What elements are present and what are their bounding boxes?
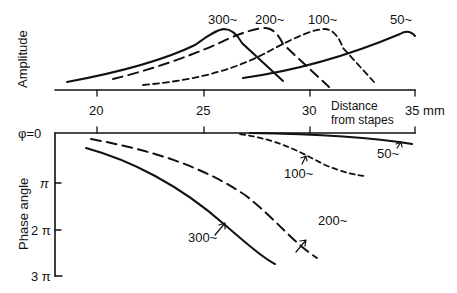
amplitude-axis-label: Amplitude [15, 30, 30, 88]
label-amp-300: 300~ [208, 12, 238, 27]
tick-30: 30 [302, 103, 316, 118]
phase-curve-300 [86, 148, 275, 264]
tick-3pi: 3 π [31, 269, 51, 284]
label-amp-50: 50~ [390, 12, 412, 27]
label-phase-100: 100~ [284, 166, 314, 181]
label-phase-200: 200~ [318, 213, 348, 228]
amp-curve-50 [243, 32, 415, 78]
label-phase-50: 50~ [377, 146, 399, 161]
distance-label-2: from stapes [331, 113, 394, 127]
amp-curve-300 [67, 29, 283, 82]
tick-25: 25 [196, 103, 210, 118]
label-amp-100: 100~ [308, 12, 338, 27]
label-amp-200: 200~ [255, 12, 285, 27]
tick-2pi: 2 π [31, 223, 51, 238]
distance-label-1: Distance [331, 99, 378, 113]
cochlea-amplitude-phase-figure: Amplitude 20 25 30 35 mm Distance from s… [0, 0, 457, 293]
tick-35: 35 mm [405, 103, 445, 118]
tick-phi0: φ=0 [18, 126, 41, 141]
tick-pi: π [40, 176, 49, 191]
tick-20: 20 [89, 103, 103, 118]
phase-axis-label: Phase angle [16, 178, 31, 250]
label-phase-300: 300~ [188, 230, 218, 245]
